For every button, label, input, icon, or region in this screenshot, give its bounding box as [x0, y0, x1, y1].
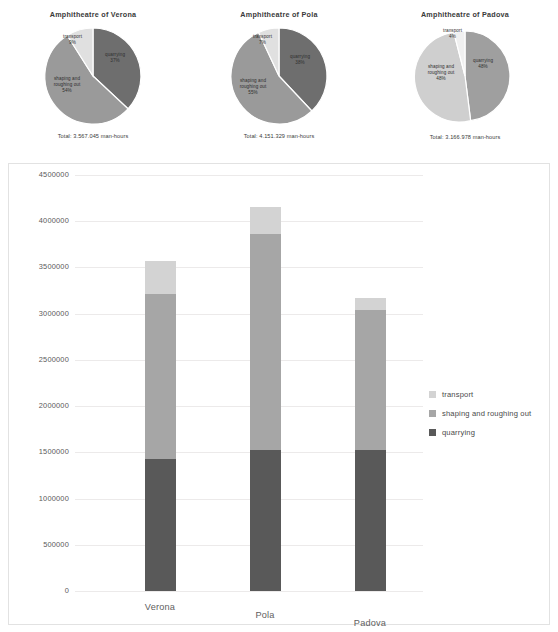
- bar-segment-quarrying[interactable]: [145, 459, 176, 591]
- gridline: [75, 591, 423, 592]
- pie-title-padova: Amphitheatre of Padova: [372, 10, 558, 20]
- y-axis-tick-label: 3000000: [9, 309, 69, 318]
- pie-label-quarrying-pola: quarrying 38%: [290, 54, 310, 66]
- y-axis-tick-label: 2000000: [9, 401, 69, 410]
- x-axis-tick-label: Padova: [325, 618, 415, 628]
- legend-label-quarrying: quarrying: [442, 428, 475, 437]
- x-axis-tick-label: Pola: [220, 610, 310, 620]
- pie-label-transport-padova: transport 4%: [443, 28, 462, 40]
- legend-item-quarrying[interactable]: quarrying: [429, 423, 558, 442]
- bar-padova[interactable]: [355, 164, 386, 591]
- bar-segment-shaping[interactable]: [355, 310, 386, 451]
- pie-label-shaping-pola: shaping and roughing out 55%: [235, 78, 271, 96]
- legend-item-transport[interactable]: transport: [429, 385, 558, 404]
- bar-pola[interactable]: [250, 164, 281, 591]
- pie-label-transport-verona: transport 9%: [63, 34, 82, 46]
- bar-segment-quarrying[interactable]: [250, 450, 281, 591]
- chart-legend: transport shaping and roughing out quarr…: [429, 385, 558, 442]
- pie-label-quarrying-padova: quarrying 48%: [473, 58, 493, 70]
- bar-segment-quarrying[interactable]: [355, 450, 386, 591]
- pie-panel-padova: Amphitheatre of Padova transport 4% quar…: [372, 0, 558, 160]
- bar-segment-transport[interactable]: [355, 298, 386, 310]
- legend-swatch-quarrying-icon: [429, 429, 436, 436]
- legend-swatch-transport-icon: [429, 391, 436, 398]
- y-axis-tick-label: 1500000: [9, 447, 69, 456]
- y-axis-tick-label: 0: [9, 586, 69, 595]
- y-axis-tick-label: 4500000: [9, 170, 69, 179]
- pie-svg-pola: [223, 26, 335, 126]
- bar-verona[interactable]: [145, 164, 176, 591]
- y-axis-tick-label: 2500000: [9, 355, 69, 364]
- legend-swatch-shaping-icon: [429, 410, 436, 417]
- stacked-bar-chart: 0500000100000015000002000000250000030000…: [8, 163, 550, 625]
- pie-label-shaping-padova: shaping and roughing out 48%: [423, 64, 459, 82]
- y-axis-tick-label: 500000: [9, 540, 69, 549]
- y-axis-tick-label: 4000000: [9, 216, 69, 225]
- y-axis-tick-label: 1000000: [9, 494, 69, 503]
- pie-label-quarrying-verona: quarrying 37%: [105, 52, 125, 64]
- pie-title-verona: Amphitheatre of Verona: [0, 10, 186, 20]
- pie-graphic-padova: transport 4% quarrying 48% shaping and r…: [409, 30, 521, 130]
- legend-item-shaping[interactable]: shaping and roughing out: [429, 404, 558, 423]
- pie-panel-pola: Amphitheatre of Pola transport 7% quarry…: [186, 0, 372, 160]
- pie-graphic-pola: transport 7% quarrying 38% shaping and r…: [223, 26, 335, 126]
- pie-graphic-verona: transport 9% quarrying 37% shaping and r…: [37, 26, 149, 126]
- pie-title-pola: Amphitheatre of Pola: [186, 10, 372, 20]
- bar-segment-transport[interactable]: [145, 261, 176, 294]
- pie-chart-row: Amphitheatre of Verona transport 9% quar…: [0, 0, 558, 160]
- pie-label-shaping-verona: shaping and roughing out 54%: [49, 76, 85, 94]
- pie-label-transport-pola: transport 7%: [253, 34, 272, 46]
- bar-segment-shaping[interactable]: [250, 234, 281, 449]
- bar-segment-transport[interactable]: [250, 207, 281, 234]
- pie-total-pola: Total: 4.151.329 man-hours: [186, 133, 372, 139]
- pie-panel-verona: Amphitheatre of Verona transport 9% quar…: [0, 0, 186, 160]
- x-axis-tick-label: Verona: [115, 602, 205, 612]
- pie-slice-quarrying: [465, 31, 510, 121]
- bar-segment-shaping[interactable]: [145, 294, 176, 459]
- pie-total-verona: Total: 3.567.045 man-hours: [0, 133, 186, 139]
- legend-label-shaping: shaping and roughing out: [442, 409, 531, 418]
- pie-total-padova: Total: 3.166.978 man-hours: [372, 134, 558, 140]
- y-axis-tick-label: 3500000: [9, 262, 69, 271]
- legend-label-transport: transport: [442, 390, 473, 399]
